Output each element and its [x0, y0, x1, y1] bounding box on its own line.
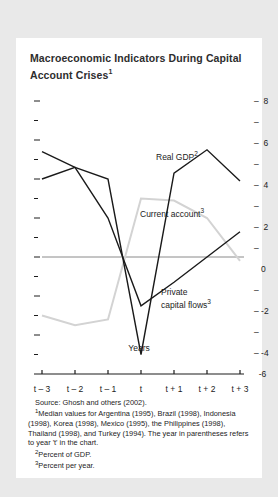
x-tick-label: t + 1 [166, 384, 183, 394]
y-tick-minor: – [254, 243, 276, 253]
note-source: Source: Ghosh and others (2002). [28, 398, 250, 407]
note-2: 2Percent of GDP. [28, 448, 250, 460]
y-tick-minor: – [254, 327, 276, 337]
note-1: 1Median values for Argentina (1995), Bra… [28, 407, 250, 447]
y-tick-label: – -2 [254, 306, 276, 316]
x-tick-label: t – 2 [67, 384, 84, 394]
series-label-current-account: Current account3 [140, 206, 204, 219]
figure-panel: Macroeconomic Indicators During Capital … [16, 38, 262, 478]
chart-title: Macroeconomic Indicators During Capital … [30, 52, 245, 82]
y-tick-minor: -6 [254, 369, 276, 379]
note-3: 3Percent per year. [28, 459, 250, 471]
y-tick-label: 0 [254, 264, 276, 274]
y-tick-label: – 4 [254, 180, 276, 190]
x-tick-label: t + 2 [199, 384, 216, 394]
chart-plot-area: – 8 – – 6 – – 4 – – 2 – 0 – – -2 – – -4 … [30, 93, 248, 345]
y-tick-minor: – [254, 285, 276, 295]
x-tick-label: t [140, 384, 142, 394]
y-tick-label: – 2 [254, 222, 276, 232]
series-label-real-gdp: Real GDP2 [156, 149, 198, 162]
figure-notes: Source: Ghosh and others (2002). 1Median… [28, 398, 250, 471]
x-tick-label: t – 1 [100, 384, 117, 394]
y-tick-minor: – [254, 117, 276, 127]
chart-svg [30, 93, 248, 378]
y-tick-minor: – [254, 159, 276, 169]
y-tick-label: – 8 [254, 96, 276, 106]
y-tick-label: – -4 [254, 348, 276, 358]
x-axis-title: Years [30, 343, 248, 353]
y-tick-label: – 6 [254, 138, 276, 148]
chart-title-footnote-marker: 1 [108, 68, 112, 75]
series-label-private-capital-flows: Private capital flows3 [161, 287, 211, 310]
chart-title-text: Macroeconomic Indicators During Capital … [30, 52, 242, 81]
x-tick-label: t + 3 [232, 384, 249, 394]
x-tick-label: t – 3 [34, 384, 51, 394]
y-tick-minor: – [254, 201, 276, 211]
